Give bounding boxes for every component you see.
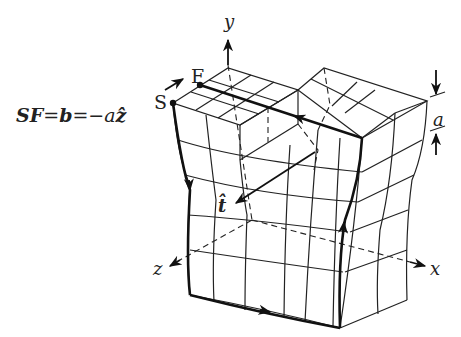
front-face [173, 103, 362, 328]
z-axis-label: z [152, 258, 163, 279]
line-direction-vector-icon [236, 152, 315, 203]
circuit-arrow-left-icon [189, 180, 190, 190]
sf-arrow-icon [165, 79, 183, 90]
start-point-dot [170, 100, 176, 106]
y-axis-label: y [223, 11, 235, 32]
circuit-right-edge [340, 138, 362, 328]
circuit-left-edge [173, 103, 190, 295]
line-direction-label: t̂ [218, 193, 227, 216]
x-axis-arrow-icon [410, 262, 425, 266]
equation-label: SF=b=−aẑ [16, 104, 128, 126]
dislocation-diagram: SF=b=−aẑ S F y x z t̂ a [0, 0, 461, 337]
z-axis-arrow-icon [170, 260, 180, 266]
axes [170, 40, 425, 266]
finish-point-dot [197, 82, 203, 88]
start-point-label: S [154, 91, 167, 113]
circuit-arrow-right-icon [343, 222, 344, 232]
x-axis-label: x [430, 258, 440, 279]
top-surface-right [298, 68, 427, 138]
